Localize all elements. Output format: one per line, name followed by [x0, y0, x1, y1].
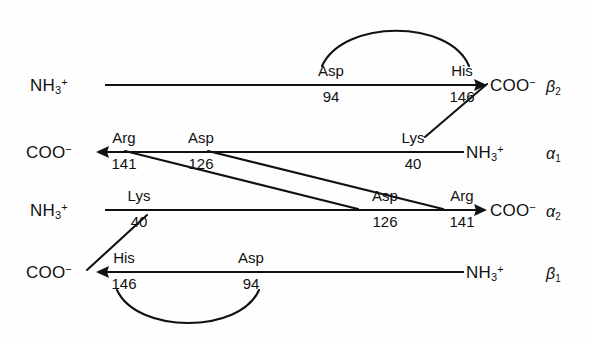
n-terminus-alpha2: NH3+	[30, 201, 68, 221]
subunit-label-alpha1: α1	[546, 145, 561, 164]
residue-number-alpha2-1: 126	[355, 213, 415, 230]
n-terminus-beta1: NH3+	[466, 263, 504, 283]
residue-number-alpha1-0: 141	[94, 155, 154, 172]
n-terminus-beta2: NH3+	[30, 76, 68, 96]
subunit-label-beta1: β1	[546, 265, 561, 284]
c-terminus-beta2: COO−	[490, 76, 536, 96]
residue-name-alpha2-0: Lys	[109, 187, 169, 204]
residue-number-beta2-0: 94	[301, 88, 361, 105]
c-terminus-beta1: COO−	[26, 263, 72, 283]
residue-name-alpha1-1: Asp	[171, 129, 231, 146]
n-terminus-alpha1: NH3+	[466, 143, 504, 163]
residue-name-alpha2-2: Arg	[432, 187, 492, 204]
residue-number-alpha1-2: 40	[383, 155, 443, 172]
subunit-label-beta2: β2	[546, 78, 561, 97]
residue-name-alpha1-2: Lys	[383, 129, 443, 146]
c-terminus-alpha1: COO−	[26, 143, 72, 163]
c-terminus-alpha2: COO−	[490, 201, 536, 221]
residue-number-beta1-0: 146	[94, 275, 154, 292]
hemoglobin-salt-bridge-diagram: NH3+COO−β2Asp94His146NH3+COO−α1Arg141Asp…	[0, 0, 591, 339]
bridge-beta1-intrachain-arc	[117, 290, 259, 323]
residue-name-beta1-1: Asp	[221, 249, 281, 266]
bridge-beta2-intrachain-arc	[322, 31, 469, 66]
diagram-lines	[0, 0, 591, 339]
residue-number-beta1-1: 94	[221, 275, 281, 292]
residue-name-alpha2-1: Asp	[355, 187, 415, 204]
subunit-label-alpha2: α2	[546, 203, 561, 222]
residue-name-beta1-0: His	[94, 249, 154, 266]
residue-name-beta2-1: His	[432, 62, 492, 79]
residue-number-alpha2-2: 141	[432, 213, 492, 230]
residue-name-alpha1-0: Arg	[94, 129, 154, 146]
residue-name-beta2-0: Asp	[301, 62, 361, 79]
residue-number-beta2-1: 146	[432, 88, 492, 105]
residue-number-alpha1-1: 126	[171, 155, 231, 172]
chain-beta2	[105, 79, 487, 91]
residue-number-alpha2-0: 40	[109, 213, 169, 230]
